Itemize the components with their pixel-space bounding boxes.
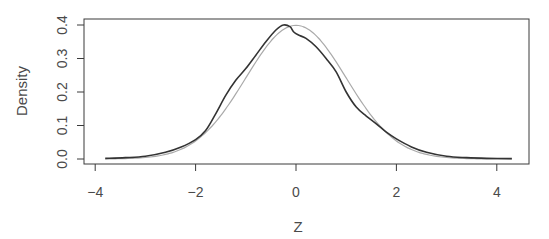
x-tick-label: −4 — [87, 184, 103, 200]
normal-density-curve — [105, 25, 512, 159]
y-axis-label: Density — [13, 65, 30, 116]
y-tick-label: 0.4 — [54, 15, 70, 35]
y-tick-label: 0.3 — [54, 49, 70, 69]
x-tick-label: −2 — [188, 184, 204, 200]
y-axis: 0.00.10.20.30.4 — [54, 15, 84, 169]
x-axis: −4−2024 — [87, 164, 501, 200]
x-tick-label: 0 — [292, 184, 300, 200]
x-tick-label: 4 — [493, 184, 501, 200]
y-tick-label: 0.1 — [54, 116, 70, 136]
y-tick-label: 0.0 — [54, 149, 70, 169]
y-tick-label: 0.2 — [54, 82, 70, 102]
density-plot: −4−2024 0.00.10.20.30.4 Z Density — [0, 0, 549, 239]
x-axis-label: Z — [293, 218, 302, 235]
empirical-density-curve — [105, 25, 512, 159]
x-tick-label: 2 — [393, 184, 401, 200]
plot-frame — [84, 19, 529, 164]
plot-lines — [105, 25, 512, 159]
